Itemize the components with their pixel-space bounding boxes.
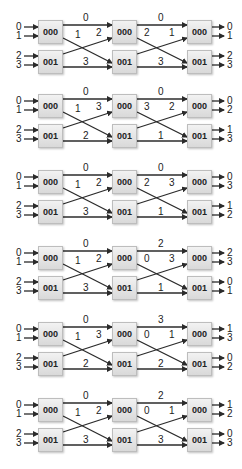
edge-label: 3 <box>83 207 89 217</box>
edge-label: 2 <box>83 131 89 141</box>
switch-box: 001 <box>38 352 63 376</box>
edge-label: 3 <box>158 57 164 67</box>
edge-label: 3 <box>169 254 175 264</box>
switch-box: 000 <box>38 170 63 194</box>
edge-label: 2 <box>144 178 150 188</box>
input-label: 1 <box>16 409 22 419</box>
edge-label: 0 <box>83 87 89 97</box>
switch-box: 000 <box>38 20 63 44</box>
switch-box: 001 <box>187 50 212 74</box>
switch-box: 001 <box>38 428 63 452</box>
edge-label: 0 <box>144 330 150 340</box>
edge-label: 1 <box>75 332 81 342</box>
edge-label: 3 <box>96 102 102 112</box>
edge-label: 0 <box>144 406 150 416</box>
edge-label: 1 <box>169 330 175 340</box>
edge-label: 3 <box>83 283 89 293</box>
switch-box: 000 <box>38 322 63 346</box>
output-label: 1 <box>227 31 233 41</box>
switch-box: 000 <box>187 170 212 194</box>
switch-box: 001 <box>187 200 212 224</box>
network-diagram: 0 1 2 3 000 001 000 001 000 001 0 1 2 3 … <box>0 400 242 460</box>
switch-box: 000 <box>112 398 137 422</box>
edge-label: 1 <box>75 180 81 190</box>
switch-box: 001 <box>112 124 137 148</box>
switch-box: 000 <box>38 94 63 118</box>
edge-label: 1 <box>158 207 164 217</box>
edge-label: 0 <box>83 391 89 401</box>
output-label: 2 <box>227 362 233 372</box>
input-label: 3 <box>16 438 22 448</box>
edge-label: 1 <box>158 131 164 141</box>
edge-label: 3 <box>83 57 89 67</box>
input-label: 3 <box>16 286 22 296</box>
edge-label: 1 <box>75 256 81 266</box>
output-label: 2 <box>227 210 233 220</box>
edge-label: 3 <box>169 178 175 188</box>
switch-box: 000 <box>112 94 137 118</box>
switch-box: 001 <box>38 124 63 148</box>
input-label: 1 <box>16 105 22 115</box>
input-label: 1 <box>16 333 22 343</box>
output-label: 3 <box>227 181 233 191</box>
input-label: 3 <box>16 210 22 220</box>
network-diagram: 0 1 2 3 000 001 000 001 000 001 0 1 2 3 … <box>0 22 242 82</box>
edge-label: 2 <box>169 102 175 112</box>
edge-label: 3 <box>158 435 164 445</box>
input-label: 3 <box>16 134 22 144</box>
edge-label: 3 <box>144 102 150 112</box>
switch-box: 001 <box>112 352 137 376</box>
edge-label: 0 <box>83 163 89 173</box>
edge-label: 0 <box>144 254 150 264</box>
input-label: 1 <box>16 31 22 41</box>
output-label: 3 <box>227 60 233 70</box>
switch-box: 000 <box>112 20 137 44</box>
switch-box: 001 <box>187 124 212 148</box>
edge-label: 2 <box>158 239 164 249</box>
edge-label: 1 <box>75 30 81 40</box>
output-label: 1 <box>227 286 233 296</box>
edge-label: 2 <box>96 28 102 38</box>
switch-box: 000 <box>187 322 212 346</box>
switch-box: 001 <box>112 276 137 300</box>
edge-label: 3 <box>96 330 102 340</box>
output-label: 3 <box>227 134 233 144</box>
edge-label: 2 <box>158 391 164 401</box>
switch-box: 000 <box>112 322 137 346</box>
output-label: 3 <box>227 333 233 343</box>
edge-label: 1 <box>169 406 175 416</box>
output-label: 3 <box>227 438 233 448</box>
output-label: 2 <box>227 105 233 115</box>
edge-label: 2 <box>96 178 102 188</box>
switch-box: 001 <box>112 428 137 452</box>
edge-label: 0 <box>158 13 164 23</box>
switch-box: 000 <box>187 246 212 270</box>
switch-box: 001 <box>112 200 137 224</box>
output-label: 3 <box>227 257 233 267</box>
edge-label: 0 <box>158 163 164 173</box>
edge-label: 0 <box>158 87 164 97</box>
edge-label: 0 <box>83 239 89 249</box>
edge-label: 2 <box>144 28 150 38</box>
edge-label: 1 <box>158 283 164 293</box>
switch-box: 001 <box>38 50 63 74</box>
edge-label: 2 <box>96 406 102 416</box>
edge-label: 3 <box>158 315 164 325</box>
switch-box: 000 <box>187 398 212 422</box>
switch-box: 000 <box>112 170 137 194</box>
network-diagram: 0 1 2 3 000 001 000 001 000 001 0 1 2 3 … <box>0 172 242 232</box>
network-diagram: 0 1 2 3 000 001 000 001 000 001 0 1 3 2 … <box>0 96 242 156</box>
switch-box: 000 <box>187 20 212 44</box>
switch-box: 001 <box>187 276 212 300</box>
edge-label: 2 <box>96 254 102 264</box>
edge-label: 2 <box>158 359 164 369</box>
input-label: 3 <box>16 362 22 372</box>
edge-label: 1 <box>75 408 81 418</box>
edge-label: 3 <box>83 435 89 445</box>
input-label: 1 <box>16 257 22 267</box>
switch-box: 000 <box>112 246 137 270</box>
switch-box: 000 <box>38 246 63 270</box>
edge-label: 2 <box>83 359 89 369</box>
switch-box: 001 <box>187 352 212 376</box>
output-label: 2 <box>227 409 233 419</box>
